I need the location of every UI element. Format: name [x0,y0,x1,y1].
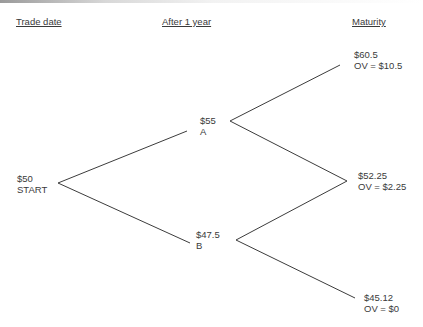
node-up-up-option-value: OV = $10.5 [354,60,402,71]
node-down-down-option-value: OV = $0 [364,303,399,314]
node-start: $50 START [17,173,47,195]
node-up-up-price: $60.5 [354,49,402,60]
node-b-price: $47.5 [196,229,220,240]
node-middle-option-value: OV = $2.25 [358,181,406,192]
branch-a-to-up [230,65,340,121]
node-start-price: $50 [17,173,47,184]
node-a-price: $55 [200,115,216,126]
node-a-label: A [200,126,216,137]
node-up-up: $60.5 OV = $10.5 [354,49,402,71]
node-b-label: B [196,240,220,251]
node-middle-price: $52.25 [358,170,406,181]
node-down-down: $45.12 OV = $0 [364,292,399,314]
node-start-label: START [17,184,47,195]
branch-start-to-b [58,183,190,243]
node-a: $55 A [200,115,216,137]
node-down-down-price: $45.12 [364,292,399,303]
node-b: $47.5 B [196,229,220,251]
node-middle: $52.25 OV = $2.25 [358,170,406,192]
branch-b-to-middle [236,181,347,240]
branch-a-to-middle [230,121,347,181]
branch-start-to-a [58,131,187,183]
branch-b-to-down [236,240,355,298]
